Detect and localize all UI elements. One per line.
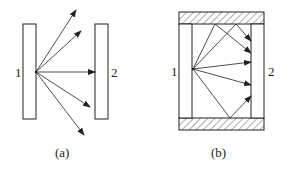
rays — [36, 10, 95, 135]
plate-1-label: 1 — [15, 65, 22, 80]
plate-2 — [251, 24, 264, 118]
figure-a: 1 2 (a) — [15, 10, 118, 160]
direct-ray — [193, 69, 251, 85]
radiation-diagram: 1 2 (a) 1 2 (b) — [0, 0, 290, 170]
plate-2 — [95, 24, 108, 119]
plate-2-label: 2 — [268, 64, 275, 79]
figure-b: 1 2 (b) — [171, 12, 275, 160]
reflected-ray — [193, 69, 251, 118]
plate-2-label: 2 — [111, 65, 118, 80]
source-point — [35, 71, 37, 73]
caption-a: (a) — [55, 145, 69, 160]
rays — [193, 24, 251, 118]
plate-1 — [179, 24, 192, 118]
direct-ray — [193, 62, 251, 69]
plate-1-label: 1 — [171, 64, 178, 79]
top-wall — [179, 12, 264, 24]
caption-b: (b) — [211, 145, 226, 160]
source-point — [192, 68, 194, 70]
bottom-wall — [179, 118, 264, 130]
ray-arrow — [36, 72, 84, 135]
plate-1 — [23, 24, 36, 119]
ray-arrow — [36, 72, 90, 107]
